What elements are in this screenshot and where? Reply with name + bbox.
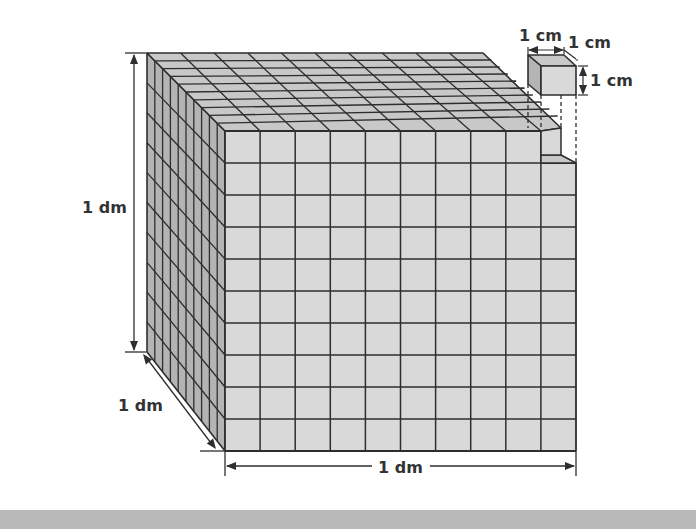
cube-diagram: 1 dm 1 dm 1 dm 1 cm 1 cm 1 cm xyxy=(0,0,696,529)
bottom-band xyxy=(0,510,696,529)
large-cube-1dm xyxy=(147,53,576,451)
small-cube-depth-label: 1 cm xyxy=(568,33,611,52)
height-label: 1 dm xyxy=(82,198,127,217)
small-cube-height-label: 1 cm xyxy=(590,71,633,90)
width-label: 1 dm xyxy=(378,458,423,477)
small-cube-width-label: 1 cm xyxy=(519,26,562,45)
depth-label: 1 dm xyxy=(118,396,163,415)
